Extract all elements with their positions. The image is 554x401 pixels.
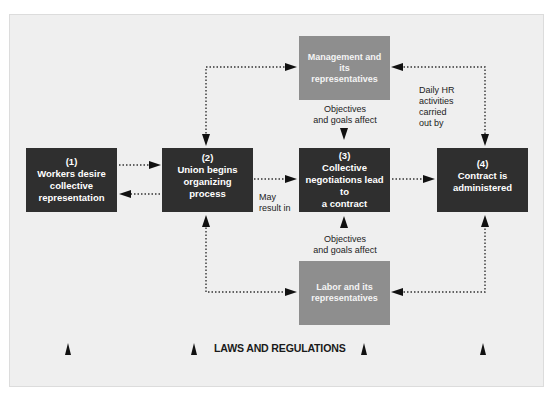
arrow-right-icon bbox=[423, 175, 435, 183]
laws-arrow-up-icon bbox=[191, 343, 197, 355]
laws-arrow-up-icon bbox=[361, 343, 367, 355]
arrow-up-icon bbox=[340, 216, 348, 228]
arrow-left-icon bbox=[391, 63, 403, 71]
connectors-overlay bbox=[0, 0, 554, 401]
arrow-down-icon bbox=[340, 128, 348, 140]
arrow-up-icon bbox=[481, 215, 489, 227]
arrow-right-icon bbox=[149, 161, 161, 169]
laws-arrow-up-icon bbox=[65, 343, 71, 355]
connector-2-management bbox=[206, 67, 288, 137]
laws-arrow-up-icon bbox=[480, 343, 486, 355]
arrow-right-icon bbox=[285, 288, 297, 296]
arrow-right-icon bbox=[285, 175, 297, 183]
arrow-left-icon bbox=[119, 190, 131, 198]
arrow-up-icon bbox=[202, 215, 210, 227]
connector-labor-4 bbox=[400, 224, 485, 292]
arrow-down-icon bbox=[202, 134, 210, 146]
connector-management-4 bbox=[400, 67, 485, 137]
arrow-right-icon bbox=[285, 63, 297, 71]
connector-2-labor bbox=[206, 224, 288, 292]
arrow-down-icon bbox=[481, 134, 489, 146]
arrow-left-icon bbox=[391, 288, 403, 296]
